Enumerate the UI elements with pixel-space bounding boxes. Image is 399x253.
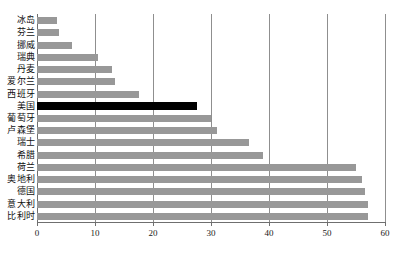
plot-area: [37, 14, 385, 222]
bar-row: [37, 161, 385, 173]
category-label: 希腊: [17, 150, 35, 160]
bar-row: [37, 75, 385, 87]
category-label: 爱尔兰: [7, 76, 35, 86]
bar-row: [37, 51, 385, 63]
chart-title: [0, 0, 399, 4]
category-label: 美国: [17, 101, 35, 111]
category-label: 瑞典: [17, 52, 35, 62]
category-label: 奥地利: [7, 174, 35, 184]
category-label: 荷兰: [17, 162, 35, 172]
category-label: 卢森堡: [7, 125, 35, 135]
bar: [37, 213, 368, 220]
x-tick-10: [95, 222, 96, 226]
x-tick-50: [327, 222, 328, 226]
bar: [37, 54, 98, 61]
bar: [37, 139, 249, 146]
bar-row: [37, 63, 385, 75]
bar-row: [37, 100, 385, 112]
bar-row: [37, 39, 385, 51]
category-label: 冰岛: [17, 15, 35, 25]
category-label: 西班牙: [7, 89, 35, 99]
bar-row: [37, 173, 385, 185]
x-tick-60: [385, 222, 386, 226]
category-label: 意大利: [7, 199, 35, 209]
bar: [37, 176, 362, 183]
bar: [37, 201, 368, 208]
x-tick-label: 0: [35, 228, 40, 238]
bar: [37, 127, 217, 134]
x-tick-0: [37, 222, 38, 226]
bar-row: [37, 149, 385, 161]
category-label: 葡萄牙: [7, 113, 35, 123]
bar: [37, 78, 115, 85]
category-label: 丹麦: [17, 64, 35, 74]
bar-highlighted: [37, 102, 197, 110]
bar-row: [37, 88, 385, 100]
bar: [37, 152, 263, 159]
bar: [37, 164, 356, 171]
x-tick-label: 10: [91, 228, 100, 238]
bar: [37, 115, 211, 122]
category-label: 德国: [17, 186, 35, 196]
bar: [37, 17, 57, 24]
bar-row: [37, 136, 385, 148]
bar: [37, 66, 112, 73]
bar-row: [37, 185, 385, 197]
x-tick-30: [211, 222, 212, 226]
x-tick-label: 20: [149, 228, 158, 238]
bar-row: [37, 112, 385, 124]
x-tick-label: 50: [323, 228, 332, 238]
bar-row: [37, 14, 385, 26]
category-label: 比利时: [7, 211, 35, 221]
bar: [37, 188, 365, 195]
bar-row: [37, 26, 385, 38]
x-tick-label: 60: [381, 228, 390, 238]
bar-chart: 冰岛芬兰挪威瑞典丹麦爱尔兰西班牙美国葡萄牙卢森堡瑞士希腊荷兰奥地利德国意大利比利…: [0, 0, 399, 253]
x-tick-20: [153, 222, 154, 226]
category-label: 芬兰: [17, 27, 35, 37]
gridline-60: [385, 14, 386, 222]
x-tick-40: [269, 222, 270, 226]
bar: [37, 91, 139, 98]
x-tick-label: 30: [207, 228, 216, 238]
category-label: 挪威: [17, 40, 35, 50]
bar-row: [37, 124, 385, 136]
bar: [37, 42, 72, 49]
bar-row: [37, 210, 385, 222]
bar: [37, 29, 59, 36]
bar-row: [37, 198, 385, 210]
category-axis: 冰岛芬兰挪威瑞典丹麦爱尔兰西班牙美国葡萄牙卢森堡瑞士希腊荷兰奥地利德国意大利比利…: [0, 14, 35, 222]
x-tick-label: 40: [265, 228, 274, 238]
category-label: 瑞士: [17, 137, 35, 147]
